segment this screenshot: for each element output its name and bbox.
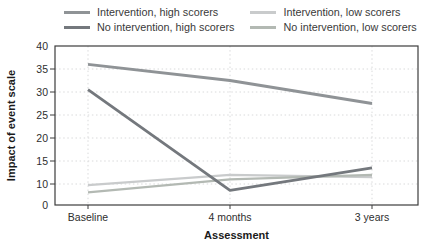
legend-item-no-intervention-low-scorers: No intervention, low scorers [250, 20, 416, 34]
plot-area-border [55, 46, 418, 205]
y-axis-title: Impact of event scale [5, 70, 17, 181]
y-tick-label-15: 15 [36, 155, 48, 167]
legend-label: No intervention, low scorers [283, 20, 416, 34]
chart-figure: Intervention, high scorersIntervention, … [0, 0, 428, 252]
x-tick-label-2: 3 years [355, 211, 389, 223]
legend-item-intervention-low-scorers: Intervention, low scorers [250, 5, 416, 19]
y-tick-label-40: 40 [36, 40, 48, 52]
legend-item-no-intervention-high-scorers: No intervention, high scorers [64, 20, 234, 34]
x-tick-label-0: Baseline [68, 211, 108, 223]
y-tick-label-20: 20 [36, 132, 48, 144]
chart-legend: Intervention, high scorersIntervention, … [64, 5, 417, 34]
x-axis-title: Assessment [204, 229, 269, 241]
legend-label: No intervention, high scorers [97, 20, 234, 34]
y-tick-label-0: 0 [42, 199, 48, 211]
legend-line-swatch-icon [250, 11, 276, 14]
legend-line-swatch-icon [64, 11, 90, 14]
legend-line-swatch-icon [250, 26, 276, 29]
y-tick-label-35: 35 [36, 63, 48, 75]
legend-item-intervention-high-scorers: Intervention, high scorers [64, 5, 234, 19]
legend-label: Intervention, low scorers [283, 5, 400, 19]
y-tick-label-25: 25 [36, 109, 48, 121]
y-tick-label-10: 10 [36, 178, 48, 190]
x-tick-label-1: 4 months [208, 211, 251, 223]
legend-line-swatch-icon [64, 26, 90, 29]
line-chart: 403530252015100Baseline4 months3 yearsAs… [0, 0, 428, 252]
y-tick-label-30: 30 [36, 86, 48, 98]
legend-label: Intervention, high scorers [97, 5, 218, 19]
